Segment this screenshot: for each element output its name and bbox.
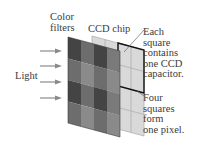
label-line: Four bbox=[143, 93, 184, 104]
label-ccd-chip: CCD chip bbox=[88, 24, 130, 34]
label-line: one pixel. bbox=[143, 125, 184, 136]
label-line: form bbox=[143, 114, 184, 125]
arrow-icon bbox=[40, 49, 62, 54]
arrow-icon bbox=[40, 80, 62, 85]
label-line: Each bbox=[143, 27, 184, 38]
label-light: Light bbox=[15, 71, 38, 81]
arrow-icon bbox=[40, 64, 62, 69]
label-four-squares: Four squares form one pixel. bbox=[143, 93, 184, 135]
color-filter-grid bbox=[68, 37, 120, 137]
light-arrows bbox=[40, 49, 62, 101]
label-line: contains bbox=[143, 48, 184, 59]
label-line: capacitor. bbox=[143, 69, 184, 80]
label-color-filters: Color filters bbox=[50, 12, 75, 33]
label-line: filters bbox=[50, 23, 75, 33]
label-line: Color bbox=[50, 12, 75, 22]
label-each-square: Each square contains one CCD capacitor. bbox=[143, 27, 184, 80]
arrow-icon bbox=[40, 96, 62, 101]
